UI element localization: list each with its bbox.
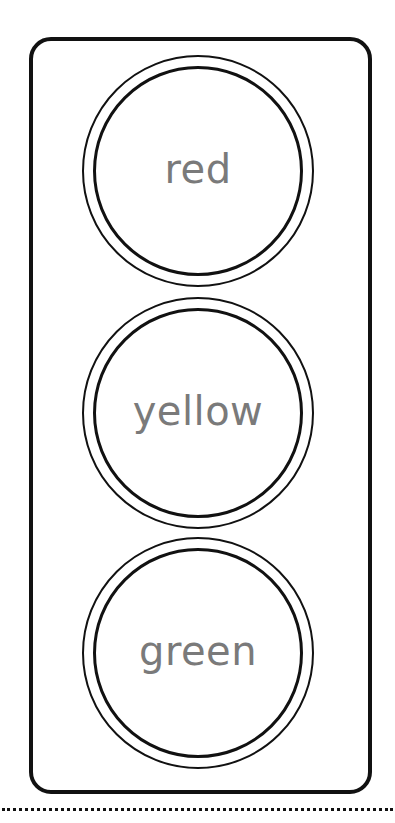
- yellow-light-inner-ring: yellow: [93, 308, 303, 518]
- dotted-cut-line: [2, 808, 393, 811]
- green-light-circle: green: [82, 537, 314, 769]
- green-light-label: green: [139, 628, 257, 674]
- red-light-inner-ring: red: [93, 66, 303, 276]
- red-light-circle: red: [82, 55, 314, 287]
- green-light-inner-ring: green: [93, 548, 303, 758]
- yellow-light-label: yellow: [133, 388, 264, 434]
- yellow-light-circle: yellow: [82, 297, 314, 529]
- red-light-label: red: [164, 146, 231, 192]
